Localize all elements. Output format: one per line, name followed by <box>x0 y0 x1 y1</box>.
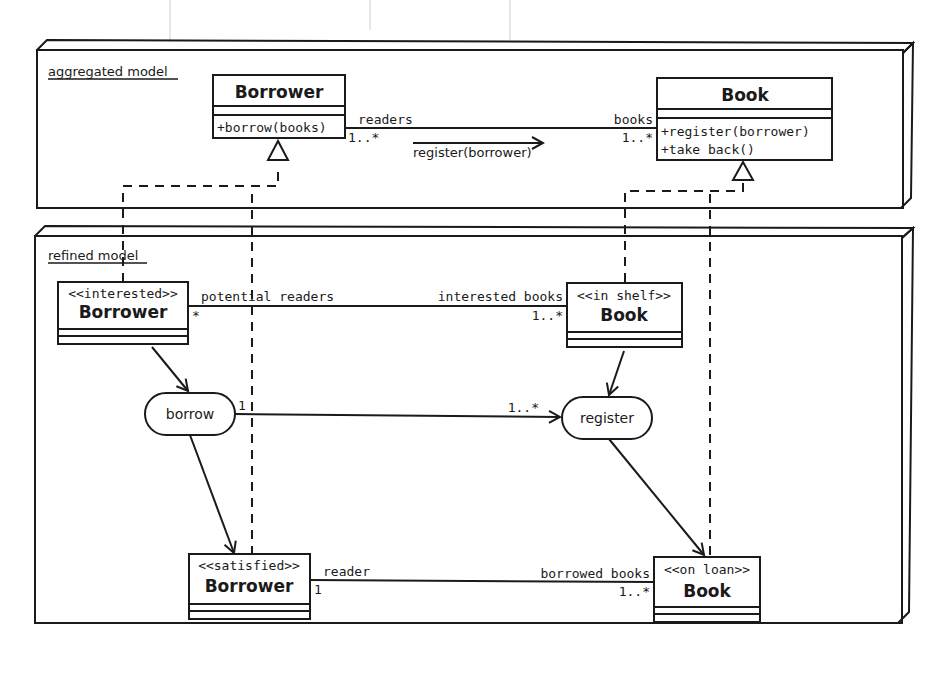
class-name: Book <box>683 581 731 601</box>
package-label-aggregated: aggregated model <box>48 64 168 79</box>
role-label: readers <box>358 112 413 127</box>
operation: +register(borrower) <box>661 124 810 139</box>
background-bleed <box>170 0 510 40</box>
multiplicity-label: 1 <box>238 398 246 413</box>
operation: +borrow(books) <box>217 120 327 135</box>
multiplicity-label: 1..* <box>622 130 653 145</box>
class-on-loan-book[interactable]: <<on loan>> Book <box>654 557 760 622</box>
role-label: potential readers <box>201 289 334 304</box>
multiplicity-label: 1..* <box>508 400 539 415</box>
class-name: Borrower <box>235 82 324 102</box>
action-borrow[interactable]: borrow <box>145 393 235 435</box>
realization-lines-book <box>625 182 743 555</box>
stereotype: <<satisfied>> <box>198 558 300 573</box>
role-label: interested books <box>438 289 563 304</box>
uml-diagram: aggregated model refined model Borrower … <box>0 0 940 677</box>
realization-triangle-book <box>733 162 753 180</box>
operation: +take back() <box>661 142 755 157</box>
flow-arrow-icon <box>609 351 624 395</box>
package-label-refined: refined model <box>48 248 138 263</box>
realization-triangle-borrower <box>268 141 288 160</box>
action-label: register <box>580 410 634 426</box>
multiplicity-label: * <box>192 308 200 323</box>
class-interested-borrower[interactable]: <<interested>> Borrower <box>58 282 188 344</box>
association-interested: potential readers * interested books 1..… <box>188 289 567 323</box>
message-label: register(borrower) <box>413 145 532 160</box>
multiplicity-label: 1 <box>314 582 322 597</box>
role-label: books <box>614 112 653 127</box>
class-name: Book <box>721 85 769 105</box>
association-borrower-book: readers 1..* books 1..* register(borrowe… <box>345 112 657 160</box>
class-borrower-aggregated[interactable]: Borrower +borrow(books) <box>213 75 345 138</box>
stereotype: <<interested>> <box>68 286 178 301</box>
class-satisfied-borrower[interactable]: <<satisfied>> Borrower <box>189 554 310 619</box>
stereotype: <<on loan>> <box>664 562 750 577</box>
flow-arrow-icon <box>190 435 234 553</box>
flow-arrow-icon <box>609 439 704 555</box>
class-book-aggregated[interactable]: Book +register(borrower) +take back() <box>657 78 832 160</box>
action-label: borrow <box>166 406 214 422</box>
association-borrow-register: 1 1..* <box>235 398 560 417</box>
class-in-shelf-book[interactable]: <<in shelf>> Book <box>567 283 682 347</box>
stereotype: <<in shelf>> <box>577 288 671 303</box>
action-register[interactable]: register <box>562 397 652 439</box>
flow-arrow-icon <box>152 347 188 391</box>
class-name: Borrower <box>79 302 168 322</box>
class-name: Borrower <box>205 576 294 596</box>
multiplicity-label: 1..* <box>619 584 650 599</box>
multiplicity-label: 1..* <box>532 308 563 323</box>
multiplicity-label: 1..* <box>348 130 379 145</box>
role-label: borrowed books <box>540 566 650 581</box>
role-label: reader <box>323 564 370 579</box>
association-satisfied: reader 1 borrowed books 1..* <box>310 564 654 599</box>
class-name: Book <box>600 305 648 325</box>
